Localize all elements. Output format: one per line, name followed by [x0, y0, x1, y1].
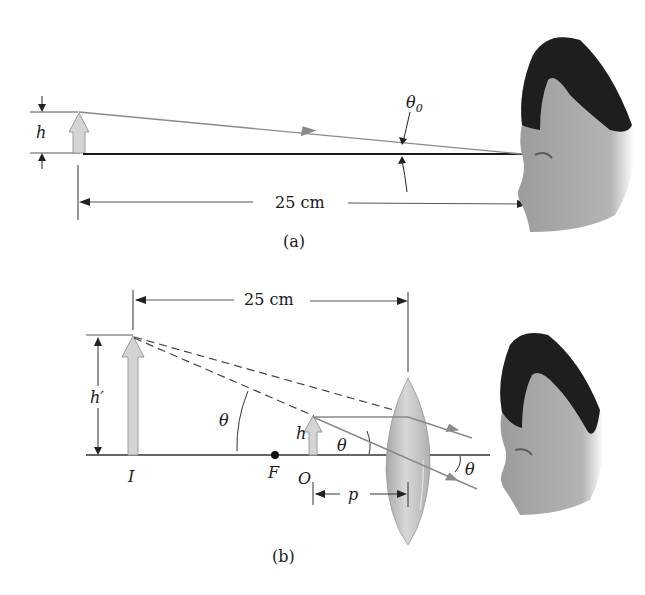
dim-arrowhead-right-b — [397, 297, 408, 305]
image-arrow — [122, 336, 144, 455]
p-arrowhead-left — [315, 490, 325, 498]
theta0-arrowhead-bottom — [398, 156, 406, 164]
magnifier-diagram: h θ0 25 cm (a) 25 cm — [0, 0, 645, 595]
object-distance-label: p — [348, 485, 358, 504]
angle-theta0-label: θ0 — [406, 93, 423, 115]
theta0-pointer-top — [403, 112, 410, 142]
ray-a — [79, 112, 522, 154]
object-height-label-a: h — [36, 123, 46, 142]
hprime-arrowhead-bottom — [94, 447, 102, 455]
virtual-ray-upper — [134, 337, 415, 416]
theta0-pointer-bottom — [402, 160, 407, 192]
dim-arrowhead-left-b — [135, 296, 146, 304]
virtual-ray-lower — [134, 338, 314, 416]
face-profile-b — [500, 333, 603, 515]
dim-arrowhead-left-a — [79, 198, 90, 206]
object-arrow-b — [304, 416, 322, 455]
angle-theta-image-label: θ — [219, 411, 229, 430]
focal-point-dot — [271, 451, 279, 459]
angle-theta-exit-label: θ — [465, 460, 475, 479]
distance-label-a: 25 cm — [275, 193, 325, 212]
panel-a: h θ0 25 cm (a) — [30, 93, 529, 251]
caption-b: (b) — [272, 547, 295, 566]
dim-line-right-a — [348, 203, 525, 204]
ray-arrowhead-a — [301, 126, 317, 137]
focal-point-label: F — [267, 463, 280, 482]
image-height-label: h′ — [90, 388, 104, 407]
angle-arc-exit — [455, 456, 460, 472]
face-profile-a — [518, 37, 634, 232]
panel-b: 25 cm h′ I θ F h O θ — [86, 290, 490, 566]
hprime-arrowhead-top — [94, 337, 102, 346]
object-point-label: O — [298, 469, 311, 488]
ray-arrowhead-lower — [445, 472, 460, 485]
angle-arc-image — [237, 391, 248, 451]
image-point-label: I — [127, 467, 135, 486]
theta0-arrowhead-top — [399, 137, 407, 145]
object-arrow-a — [69, 113, 89, 153]
angle-theta-object-label: θ — [337, 436, 347, 455]
distance-label-b: 25 cm — [244, 290, 294, 309]
object-height-label-b: h — [296, 424, 306, 443]
caption-a: (a) — [283, 232, 305, 251]
